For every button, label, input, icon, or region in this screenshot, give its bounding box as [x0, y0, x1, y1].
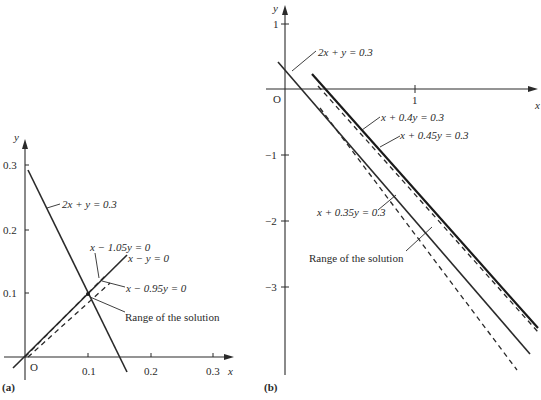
- leader-line: [90, 297, 125, 312]
- y-tick-label: −3: [265, 281, 277, 293]
- x-axis-label: x: [227, 365, 233, 377]
- y-tick-label: 0.3: [3, 159, 17, 171]
- equation-label: 2x + y = 0.3: [318, 46, 373, 58]
- x-tick-label: 0.1: [82, 365, 96, 377]
- equation-label: x + 0.4y = 0.3: [380, 111, 445, 123]
- x-axis-arrow-icon: [224, 354, 234, 360]
- leader-line: [95, 253, 99, 278]
- range-label: Range of the solution: [125, 311, 220, 323]
- equation-label: x − 0.95y = 0: [125, 282, 187, 294]
- origin-label: O: [30, 361, 38, 373]
- leader-line: [380, 136, 400, 147]
- panel-label: (a): [2, 381, 15, 394]
- x-tick-label: 0.3: [206, 365, 220, 377]
- y-tick-label: 1: [273, 18, 279, 30]
- solution-point: [86, 292, 90, 296]
- leader-line: [102, 281, 125, 287]
- y-axis-label: y: [13, 131, 19, 143]
- range-label: Range of the solution: [309, 252, 404, 264]
- origin-label: O: [273, 93, 281, 105]
- y-tick-label: 0.1: [3, 287, 17, 299]
- equation-label: 2x + y = 0.3: [62, 198, 117, 210]
- x-axis-arrow-icon: [528, 86, 538, 92]
- figure-canvas: 0.1 0.2 0.3 x O 0.1 0.2 0.3 y 2x + y = 0…: [0, 0, 541, 400]
- leader-line: [406, 227, 432, 251]
- x-tick-label: 1: [412, 94, 418, 106]
- y-tick-label: −1: [265, 149, 277, 161]
- equation-label: x + 0.45y = 0.3: [399, 129, 469, 141]
- panel-b: 1 x O 1 −1 −2 −3 y 2x + y = 0.3 x + 0.4y…: [264, 2, 540, 394]
- y-axis-label: y: [272, 2, 278, 14]
- line-2x-plus-y: [278, 62, 530, 354]
- panel-a: 0.1 0.2 0.3 x O 0.1 0.2 0.3 y 2x + y = 0…: [2, 131, 234, 394]
- y-tick-label: −2: [265, 215, 277, 227]
- equation-label: x + 0.35y = 0.3: [316, 206, 386, 218]
- equation-label: x − y = 0: [127, 252, 170, 264]
- x-tick-label: 0.2: [144, 365, 158, 377]
- y-axis-arrow-icon: [282, 5, 288, 15]
- y-axis-arrow-icon: [22, 139, 28, 149]
- x-axis-label: x: [534, 99, 540, 111]
- panel-label: (b): [264, 381, 278, 394]
- leader-line: [362, 117, 380, 130]
- leader-line: [292, 51, 316, 71]
- line-x-minus-095y: [28, 283, 110, 357]
- leader-line: [47, 204, 60, 208]
- y-tick-label: 0.2: [3, 224, 17, 236]
